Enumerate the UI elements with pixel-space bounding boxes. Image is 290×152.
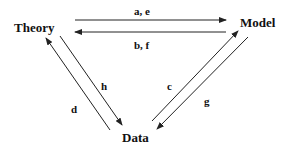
- edge-label-c: c: [167, 81, 172, 92]
- node-theory: Theory: [14, 21, 54, 34]
- edge-label-g: g: [204, 96, 210, 107]
- arrow-theory-to-data: [60, 36, 122, 125]
- node-data: Data: [122, 131, 149, 144]
- edge-label-bf: b, f: [134, 40, 149, 51]
- edge-label-d: d: [71, 104, 77, 115]
- node-model: Model: [240, 16, 275, 29]
- edge-label-ae: a, e: [134, 6, 150, 17]
- arrow-data-to-model: [152, 31, 238, 121]
- diagram-canvas: Theory Model Data a, e b, f c g d h: [0, 0, 290, 152]
- edge-label-h: h: [101, 81, 107, 92]
